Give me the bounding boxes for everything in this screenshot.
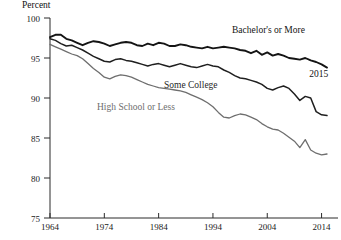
- line-chart: Percent 7580859095100 196419741984199420…: [0, 0, 341, 240]
- chart-container: Percent 7580859095100 196419741984199420…: [0, 0, 341, 240]
- y-tick-label: 85: [31, 134, 41, 144]
- x-axis-ticks: 196419741984199420042014: [41, 213, 331, 232]
- y-tick-label: 100: [27, 14, 41, 24]
- x-tick-label: 2004: [258, 222, 277, 232]
- y-tick-label: 95: [31, 54, 41, 64]
- series-line: [50, 35, 327, 68]
- series-line: [50, 39, 327, 116]
- year-annotation: 2015: [309, 69, 328, 79]
- y-tick-label: 75: [31, 214, 41, 224]
- y-tick-label: 90: [31, 94, 41, 104]
- series-lines: [50, 35, 327, 155]
- series-label: Some College: [164, 80, 218, 90]
- x-tick-label: 2014: [313, 222, 332, 232]
- y-tick-label: 80: [31, 174, 41, 184]
- y-axis-ticks: 7580859095100: [27, 14, 51, 224]
- y-axis-title: Percent: [22, 0, 51, 10]
- y-axis-title-group: Percent: [22, 0, 51, 10]
- x-tick-label: 1964: [41, 222, 60, 232]
- series-label: High School or Less: [97, 102, 175, 112]
- chart-annotations: 2015: [309, 69, 328, 79]
- x-tick-label: 1984: [150, 222, 169, 232]
- series-label: Bachelor's or More: [232, 25, 305, 35]
- series-line: [50, 44, 327, 154]
- x-tick-label: 1994: [204, 222, 223, 232]
- x-tick-label: 1974: [95, 222, 114, 232]
